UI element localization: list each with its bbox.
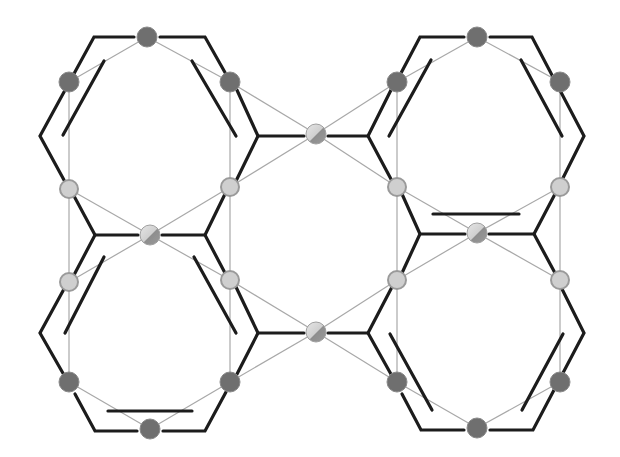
light-atom-node (388, 271, 406, 289)
ring-bottom-left-inner-left (65, 257, 104, 333)
dark-atom-node (387, 372, 407, 392)
dark-atom-node (550, 72, 570, 92)
ring-top-left-outer-right (160, 37, 227, 76)
ring-top-right-outer-right (490, 37, 584, 180)
light-atom-node (551, 271, 569, 289)
dark-atom-node (220, 72, 240, 92)
metal-center-node (306, 322, 326, 342)
ring-bottom-right-outer-bottom (402, 394, 464, 430)
thin-link (477, 37, 560, 82)
thin-link (316, 332, 397, 382)
ring-bottom-left-outer (40, 289, 64, 375)
ring-top-left-outer (40, 37, 134, 180)
ring-bottom-right-side (368, 287, 392, 376)
right-mid-y-right (534, 194, 555, 273)
ring-top-left-side (236, 88, 258, 181)
thin-link (316, 134, 397, 187)
dark-atom-node (550, 372, 570, 392)
dark-atom-node (467, 418, 487, 438)
ligand-bonds (40, 37, 584, 431)
mof-structure-diagram (0, 0, 620, 457)
ring-top-right-inner-left (389, 60, 431, 136)
light-atom-node (60, 180, 78, 198)
thin-link (230, 332, 316, 382)
thin-link (230, 82, 316, 134)
thin-link (316, 280, 397, 332)
right-mid-y-left (402, 194, 420, 273)
dark-atom-node (59, 72, 79, 92)
metal-center-node (306, 124, 326, 144)
thin-link (230, 134, 316, 187)
dark-atom-node (140, 419, 160, 439)
metal-center-node (140, 225, 160, 245)
light-atom-node (221, 271, 239, 289)
thin-link (316, 82, 397, 134)
light-atom-node (388, 178, 406, 196)
dark-atom-node (137, 27, 157, 47)
thin-link (230, 280, 316, 332)
metal-center-node (467, 223, 487, 243)
left-mid-y-left (74, 196, 95, 275)
light-atom-node (551, 178, 569, 196)
ring-bottom-right-outer-bottom-right (490, 289, 584, 430)
left-mid-y-right (205, 194, 225, 273)
light-atom-node (60, 273, 78, 291)
dark-atom-node (59, 372, 79, 392)
dark-atom-node (467, 27, 487, 47)
light-atom-node (221, 178, 239, 196)
ring-bottom-left-side (236, 287, 258, 376)
dark-atom-node (220, 372, 240, 392)
dark-atom-node (387, 72, 407, 92)
ring-top-right-outer (400, 37, 464, 75)
